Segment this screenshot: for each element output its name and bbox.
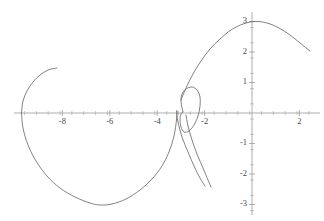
plot-canvas: -8-6-4-22 321-1-2-3	[0, 0, 324, 221]
y-tick-label: 2	[243, 46, 247, 56]
x-tick-label: -4	[154, 116, 162, 126]
x-tick-label: 2	[297, 116, 301, 126]
y-tick-label: 1	[243, 76, 247, 86]
y-axis-tick-labels: 321-1-2-3	[240, 15, 247, 208]
curve-branch-right-arch	[181, 21, 310, 100]
y-tick-label: -2	[240, 168, 247, 178]
parametric-curve-chart: -8-6-4-22 321-1-2-3	[0, 0, 324, 221]
y-tick-label: 3	[243, 15, 247, 25]
y-tick-label: -3	[240, 198, 247, 208]
curve-branch-small-loop	[180, 87, 200, 132]
x-tick-label: -6	[106, 116, 113, 126]
x-tick-label: -8	[59, 116, 66, 126]
y-tick-label: -1	[240, 137, 247, 147]
curve-branch-upper-left-arc	[22, 68, 58, 113]
x-tick-label: -2	[201, 116, 208, 126]
